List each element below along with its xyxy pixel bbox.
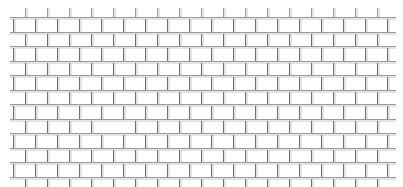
brick-wall — [0, 0, 403, 187]
